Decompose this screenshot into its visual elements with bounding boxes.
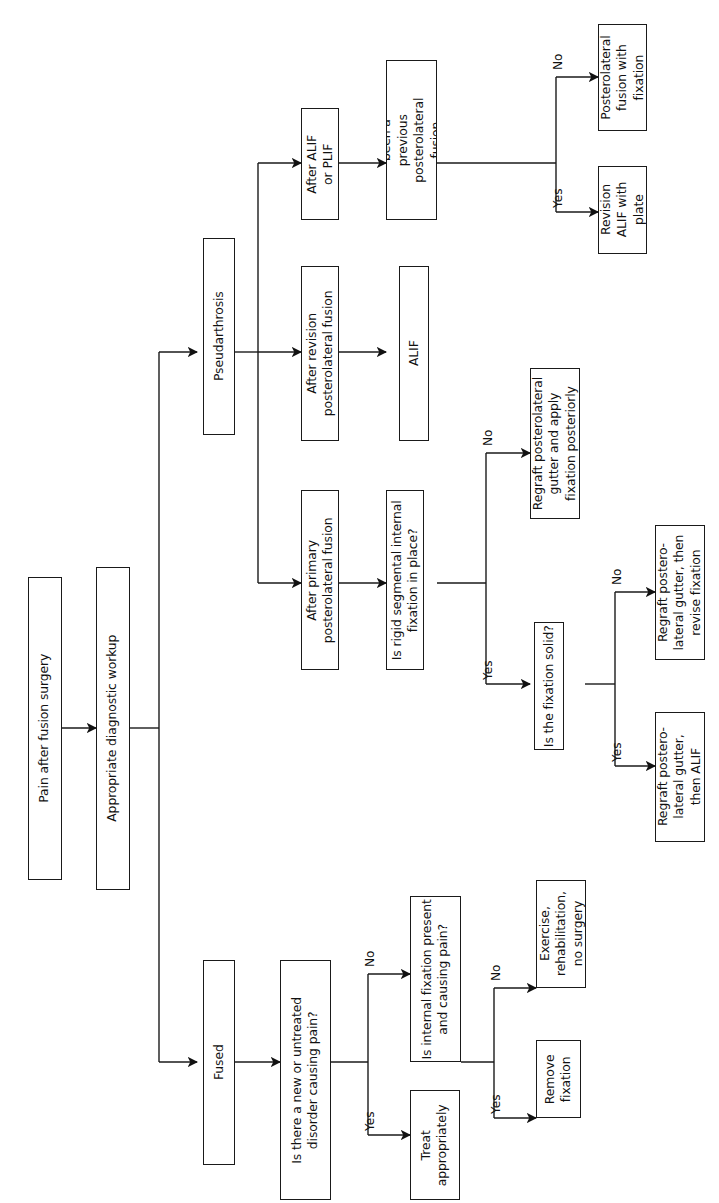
node-alif-label: ALIF xyxy=(406,341,422,367)
node-previous-fusion-question[interactable]: Has therebeen apreviousposterolateralfus… xyxy=(386,60,437,220)
edge-label-new-disorder-no: No xyxy=(364,950,376,967)
node-rigid-fixation-question[interactable]: Is rigid segmental internalfixation in p… xyxy=(386,490,424,670)
node-after-revision-plf[interactable]: After revisionposterolateral fusion xyxy=(301,266,339,441)
node-posterolateral-fusion-with-fixation-label: Posterolateralfusion withfixation xyxy=(598,35,647,119)
node-after-revision-plf-label: After revisionposterolateral fusion xyxy=(304,291,337,417)
node-regraft-apply-fixation[interactable]: Regraft posterolateralgutter and applyfi… xyxy=(530,368,580,519)
node-internal-fixation-question[interactable]: Is internal fixation presentand causing … xyxy=(410,896,461,1062)
node-remove-fixation-label: Removefixation xyxy=(542,1054,575,1104)
node-after-primary-plf-label: After primaryposterolateral fusion xyxy=(304,517,337,643)
node-fixation-solid-question-label: Is the fixation solid? xyxy=(541,625,557,747)
node-fixation-solid-question[interactable]: Is the fixation solid? xyxy=(534,622,564,750)
node-regraft-then-alif[interactable]: Regraft postero-lateral gutter,then ALIF xyxy=(655,712,705,842)
node-alif[interactable]: ALIF xyxy=(399,266,429,441)
edge-label-internal-fixation-yes: Yes xyxy=(490,1094,502,1114)
node-revision-alif-with-plate[interactable]: RevisionALIF withplate xyxy=(598,166,647,254)
node-start[interactable]: Pain after fusion surgery xyxy=(28,577,62,880)
node-workup[interactable]: Appropriate diagnostic workup xyxy=(96,567,130,890)
edge-label-rigid-fixation-no: No xyxy=(482,429,494,446)
node-pseudarthrosis-label: Pseudarthrosis xyxy=(211,292,227,382)
node-regraft-revise-fixation[interactable]: Regraft postero-lateral gutter, thenrevi… xyxy=(655,525,705,660)
node-pseudarthrosis[interactable]: Pseudarthrosis xyxy=(203,238,235,435)
node-regraft-revise-fixation-label: Regraft postero-lateral gutter, thenrevi… xyxy=(655,535,704,651)
flowchart-canvas: Pain after fusion surgery Appropriate di… xyxy=(0,0,719,1203)
node-new-disorder-question-label: Is there a new or untreateddisorder caus… xyxy=(289,997,322,1164)
edge-label-fixation-solid-no: No xyxy=(611,568,623,585)
node-posterolateral-fusion-with-fixation[interactable]: Posterolateralfusion withfixation xyxy=(598,24,647,131)
node-start-label: Pain after fusion surgery xyxy=(37,654,53,803)
edge-label-new-disorder-yes: Yes xyxy=(364,1111,376,1131)
node-revision-alif-with-plate-label: RevisionALIF withplate xyxy=(598,182,647,238)
node-treat-appropriately-label: Treatappropriately xyxy=(419,1104,452,1186)
node-previous-fusion-question-label: Has therebeen apreviousposterolateralfus… xyxy=(386,97,437,182)
node-fused[interactable]: Fused xyxy=(203,960,235,1165)
node-internal-fixation-question-label: Is internal fixation presentand causing … xyxy=(419,899,452,1059)
node-exercise-rehab[interactable]: Exercise,rehabilitation,no surgery xyxy=(536,880,586,988)
edge-label-fixation-solid-yes: Yes xyxy=(611,742,623,762)
node-fused-label: Fused xyxy=(211,1045,227,1081)
node-new-disorder-question[interactable]: Is there a new or untreateddisorder caus… xyxy=(280,960,331,1200)
node-exercise-rehab-label: Exercise,rehabilitation,no surgery xyxy=(536,892,585,977)
node-workup-label: Appropriate diagnostic workup xyxy=(105,635,121,822)
node-after-alif-plif[interactable]: After ALIFor PLIF xyxy=(301,108,339,220)
edge-label-internal-fixation-no: No xyxy=(490,964,502,981)
node-treat-appropriately[interactable]: Treatappropriately xyxy=(410,1090,460,1200)
edge-label-rigid-fixation-yes: Yes xyxy=(482,660,494,680)
node-after-primary-plf[interactable]: After primaryposterolateral fusion xyxy=(301,490,339,670)
edge-label-prev-fusion-no: No xyxy=(552,53,564,70)
node-remove-fixation[interactable]: Removefixation xyxy=(536,1040,581,1118)
edge-label-prev-fusion-yes: Yes xyxy=(552,188,564,208)
node-regraft-then-alif-label: Regraft postero-lateral gutter,then ALIF xyxy=(655,727,704,826)
node-after-alif-plif-label: After ALIFor PLIF xyxy=(304,135,337,194)
node-rigid-fixation-question-label: Is rigid segmental internalfixation in p… xyxy=(389,500,422,660)
node-regraft-apply-fixation-label: Regraft posterolateralgutter and applyfi… xyxy=(530,377,579,510)
